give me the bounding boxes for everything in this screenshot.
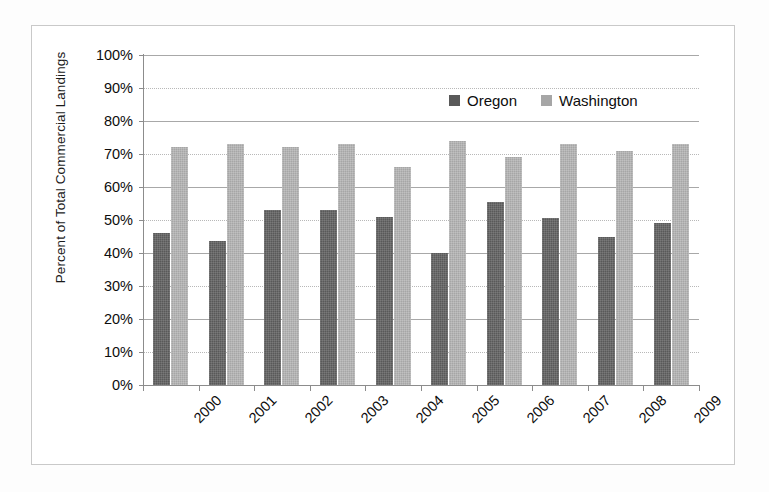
bar-group (643, 55, 699, 385)
x-tick-mark (310, 385, 311, 391)
y-tick-label: 20% (71, 311, 133, 327)
bar-group (143, 55, 199, 385)
y-tick-label: 50% (71, 212, 133, 228)
x-tick-mark (365, 385, 366, 391)
chart-legend: Oregon Washington (449, 93, 638, 108)
x-tick-mark (143, 385, 144, 391)
bar-washington-2005 (449, 141, 466, 385)
bar-oregon-2000 (153, 233, 170, 385)
x-axis-tick-labels: 2000200120022003200420052006200720082009 (143, 392, 699, 462)
y-tick-label: 90% (71, 80, 133, 96)
x-tick-label-2005: 2005 (468, 392, 502, 426)
y-tick-label: 70% (71, 146, 133, 162)
oregon-swatch-icon (449, 95, 460, 106)
x-tick-label-2006: 2006 (524, 392, 558, 426)
x-tick-mark (588, 385, 589, 391)
y-tick-label: 10% (71, 344, 133, 360)
x-tick-mark (532, 385, 533, 391)
x-tick-label-2000: 2000 (190, 392, 224, 426)
x-tick-mark (477, 385, 478, 391)
bar-washington-2007 (560, 144, 577, 385)
x-tick-label-2004: 2004 (413, 392, 447, 426)
x-tick-label-2003: 2003 (357, 392, 391, 426)
x-tick-mark (421, 385, 422, 391)
bar-washington-2009 (672, 144, 689, 385)
legend-entry-washington: Washington (541, 93, 638, 108)
bar-oregon-2003 (320, 210, 337, 385)
bar-group (310, 55, 366, 385)
bar-washington-2002 (282, 147, 299, 385)
legend-entry-oregon: Oregon (449, 93, 517, 108)
bar-washington-2003 (338, 144, 355, 385)
legend-label-oregon: Oregon (467, 93, 517, 108)
bar-group (254, 55, 310, 385)
bar-oregon-2008 (598, 237, 615, 386)
x-tick-label-2001: 2001 (246, 392, 280, 426)
bar-oregon-2001 (209, 241, 226, 385)
y-tick-label: 30% (71, 278, 133, 294)
bar-group (365, 55, 421, 385)
x-tick-mark (699, 385, 700, 391)
x-tick-label-2002: 2002 (301, 392, 335, 426)
x-axis-tick-marks (143, 385, 699, 391)
bar-washington-2001 (227, 144, 244, 385)
y-axis-title: Percent of Total Commercial Landings (53, 8, 68, 328)
bar-oregon-2002 (264, 210, 281, 385)
bar-group (199, 55, 255, 385)
bar-oregon-2009 (654, 223, 671, 385)
x-tick-mark (643, 385, 644, 391)
y-tick-label: 60% (71, 179, 133, 195)
x-tick-mark (254, 385, 255, 391)
bar-washington-2006 (505, 157, 522, 385)
x-tick-mark (199, 385, 200, 391)
washington-swatch-icon (541, 95, 552, 106)
y-tick-label: 0% (71, 377, 133, 393)
bar-washington-2008 (616, 151, 633, 385)
bar-oregon-2006 (487, 202, 504, 385)
y-tick-label: 80% (71, 113, 133, 129)
bar-oregon-2005 (431, 253, 448, 385)
x-tick-label-2008: 2008 (635, 392, 669, 426)
bar-oregon-2004 (376, 217, 393, 385)
chart-figure: Percent of Total Commercial Landings 0%1… (0, 0, 769, 492)
bar-washington-2004 (394, 167, 411, 385)
legend-label-washington: Washington (559, 93, 638, 108)
bar-oregon-2007 (542, 218, 559, 385)
x-tick-label-2007: 2007 (579, 392, 613, 426)
y-tick-label: 100% (71, 47, 133, 63)
y-tick-label: 40% (71, 245, 133, 261)
bar-washington-2000 (171, 147, 188, 385)
